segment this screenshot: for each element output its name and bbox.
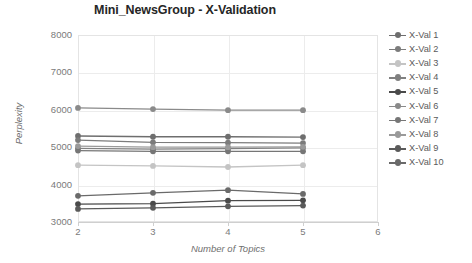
data-point-marker [225, 198, 231, 204]
x-axis-tick-mark [153, 222, 154, 226]
series-1 [75, 133, 306, 140]
series-line [78, 146, 303, 147]
x-axis-tick-mark [378, 222, 379, 226]
y-axis-tick-label: 7000 [12, 67, 72, 77]
data-point-marker [300, 203, 306, 209]
x-axis-tick-mark [228, 222, 229, 226]
legend-marker-icon [389, 115, 406, 126]
series-3 [75, 162, 306, 170]
legend-item-3[interactable]: X-Val 3 [389, 56, 472, 70]
legend-item-2[interactable]: X-Val 2 [389, 42, 472, 56]
series-line [78, 108, 303, 110]
legend-item-10[interactable]: X-Val 10 [389, 156, 472, 170]
plot-area [78, 35, 378, 222]
series-line [78, 151, 303, 152]
x-axis-tick-label: 4 [216, 226, 240, 237]
y-axis-tick-label: 8000 [12, 30, 72, 40]
legend-label: X-Val 10 [409, 157, 444, 168]
data-point-marker [300, 197, 306, 203]
series-line [78, 140, 303, 143]
chart-legend: X-Val 1X-Val 2X-Val 3X-Val 4X-Val 5X-Val… [389, 28, 472, 170]
data-point-marker [150, 205, 156, 211]
legend-label: X-Val 8 [409, 129, 438, 140]
legend-label: X-Val 1 [409, 30, 438, 41]
chart-container: Mini_NewsGroup - X-Validation 3000400050… [0, 0, 472, 263]
legend-label: X-Val 7 [409, 115, 438, 126]
legend-marker-icon [389, 44, 406, 55]
legend-marker-icon [389, 101, 406, 112]
series-line [78, 200, 303, 204]
legend-item-1[interactable]: X-Val 1 [389, 28, 472, 42]
x-axis-title: Number of Topics [78, 243, 378, 254]
x-axis-tick-label: 2 [66, 226, 90, 237]
data-point-marker [300, 134, 306, 140]
data-point-marker [150, 190, 156, 196]
legend-label: X-Val 3 [409, 58, 438, 69]
legend-marker-icon [389, 58, 406, 69]
data-point-marker [75, 137, 81, 143]
data-point-marker [75, 162, 81, 168]
legend-label: X-Val 5 [409, 86, 438, 97]
data-point-marker [225, 134, 231, 140]
data-point-marker [150, 144, 156, 150]
legend-item-8[interactable]: X-Val 8 [389, 127, 472, 141]
data-point-marker [300, 191, 306, 197]
legend-label: X-Val 6 [409, 101, 438, 112]
y-axis-tick-label: 3000 [12, 217, 72, 227]
y-axis-tick-label: 4000 [12, 180, 72, 190]
series-lines [78, 35, 378, 222]
legend-marker-icon [389, 143, 406, 154]
data-point-marker [225, 203, 231, 209]
data-point-marker [75, 206, 81, 212]
legend-item-7[interactable]: X-Val 7 [389, 113, 472, 127]
legend-marker-icon [389, 129, 406, 140]
x-axis-tick-mark [78, 222, 79, 226]
x-axis-tick-label: 3 [141, 226, 165, 237]
data-point-marker [225, 107, 231, 113]
legend-label: X-Val 4 [409, 72, 438, 83]
x-axis-tick-label: 5 [291, 226, 315, 237]
series-6 [75, 105, 306, 113]
legend-marker-icon [389, 157, 406, 168]
legend-item-6[interactable]: X-Val 6 [389, 99, 472, 113]
data-point-marker [150, 106, 156, 112]
data-point-marker [300, 144, 306, 150]
data-point-marker [225, 164, 231, 170]
legend-marker-icon [389, 86, 406, 97]
series-line [78, 165, 303, 167]
data-point-marker [225, 187, 231, 193]
data-point-marker [150, 163, 156, 169]
legend-item-4[interactable]: X-Val 4 [389, 71, 472, 85]
data-point-marker [300, 162, 306, 168]
series-line [78, 148, 303, 149]
series-line [78, 190, 303, 196]
legend-label: X-Val 2 [409, 44, 438, 55]
legend-label: X-Val 9 [409, 143, 438, 154]
series-2 [75, 137, 306, 146]
legend-item-5[interactable]: X-Val 5 [389, 85, 472, 99]
data-point-marker [225, 144, 231, 150]
legend-marker-icon [389, 30, 406, 41]
legend-marker-icon [389, 72, 406, 83]
data-point-marker [75, 143, 81, 149]
x-axis-tick-mark [303, 222, 304, 226]
y-axis-title: Perplexity [13, 84, 24, 164]
data-point-marker [75, 105, 81, 111]
data-point-marker [300, 107, 306, 113]
legend-item-9[interactable]: X-Val 9 [389, 142, 472, 156]
series-10 [75, 187, 306, 198]
data-point-marker [75, 193, 81, 199]
x-axis-tick-label: 6 [366, 226, 390, 237]
series-line [78, 136, 303, 137]
series-line [78, 206, 303, 209]
data-point-marker [150, 134, 156, 140]
